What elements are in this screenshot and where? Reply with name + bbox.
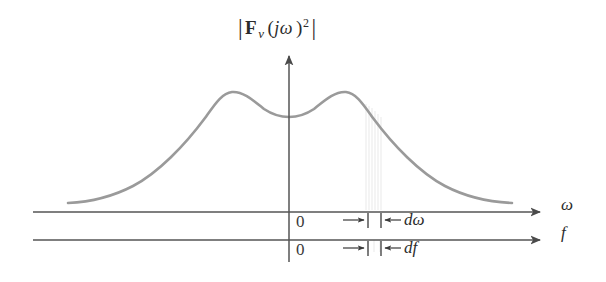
- omega-band-markers: [343, 213, 401, 228]
- omega-origin-label: 0: [296, 213, 305, 230]
- abs-bar-open: |: [236, 15, 245, 40]
- ordinate-axis-label: |Fv(jω)2|: [236, 16, 318, 40]
- frequency-axis-label: f: [561, 224, 566, 241]
- function-symbol: F: [245, 17, 257, 38]
- frequency-band-label: df: [404, 239, 417, 256]
- figure-root: |Fv(jω)2| ω f 0 0 dω df: [0, 0, 606, 282]
- omega-band-label: dω: [404, 211, 425, 228]
- paren-close: ): [293, 17, 303, 38]
- frequency-origin-label: 0: [296, 241, 305, 258]
- abs-bar-close: |: [309, 15, 318, 40]
- paren-open: (: [265, 17, 275, 38]
- argument-jomega: jω: [274, 18, 293, 38]
- function-subscript: v: [257, 26, 264, 41]
- omega-axis-label: ω: [561, 196, 573, 213]
- spectrum-curve: [68, 92, 512, 203]
- frequency-band-markers: [343, 241, 401, 256]
